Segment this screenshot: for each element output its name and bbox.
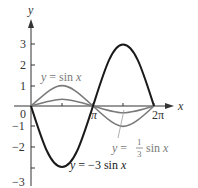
- x-axis-arrow-icon: [165, 103, 174, 109]
- y-tick-label-neg3: −3: [12, 175, 25, 188]
- label-third-sin-x: y =: [111, 141, 127, 155]
- label-sin-x: y = sin x: [40, 70, 82, 84]
- x-axis-label: x: [177, 99, 184, 113]
- label-third-fn: sin x: [146, 141, 169, 155]
- sine-graph: y x 3 2 1 0 −1 −2 −3 π 2π y = sin x y = …: [0, 0, 198, 188]
- label-pointer-line: [118, 110, 124, 138]
- y-axis-arrow-icon: [28, 19, 34, 28]
- label-third-den: 3: [137, 149, 142, 159]
- y-tick-label-3: 3: [20, 37, 26, 51]
- y-axis-label: y: [27, 3, 34, 17]
- y-tick-label-2: 2: [20, 58, 26, 72]
- label-third-num: 1: [137, 137, 142, 147]
- y-tick-label-neg2: −2: [12, 140, 25, 154]
- x-tick-label-2pi: 2π: [152, 108, 164, 122]
- label-neg3-sin-x: y = −3 sin x: [69, 158, 127, 172]
- y-tick-label-neg1: −1: [12, 119, 25, 133]
- x-tick-label-pi: π: [91, 108, 98, 122]
- y-tick-label-1: 1: [20, 79, 26, 93]
